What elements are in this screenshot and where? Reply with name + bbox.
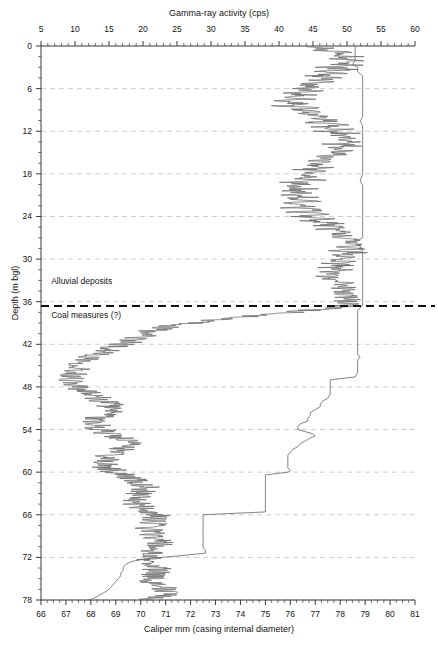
depth-tick-label-54: 54 (8, 425, 32, 435)
geology-annotation-0: Alluvial deposits (51, 276, 112, 286)
plot-frame (41, 46, 415, 600)
bottom-axis-ticks (41, 600, 415, 605)
depth-tick-label-42: 42 (8, 339, 32, 349)
top-axis-ticks (41, 41, 415, 46)
depth-tick-label-66: 66 (8, 510, 32, 520)
bottom-tick-label-81: 81 (395, 609, 435, 619)
top-axis-title: Gamma-ray activity (cps) (0, 8, 438, 18)
depth-tick-label-36: 36 (8, 297, 32, 307)
borehole-log-chart (0, 0, 438, 645)
top-tick-label-60: 60 (395, 24, 435, 34)
depth-tick-label-30: 30 (8, 254, 32, 264)
depth-tick-label-78: 78 (8, 595, 32, 605)
depth-axis-ticks (36, 46, 41, 600)
depth-tick-label-6: 6 (8, 84, 32, 94)
grid-lines (41, 89, 415, 600)
gamma-ray-trace (59, 46, 368, 600)
depth-tick-label-12: 12 (8, 126, 32, 136)
caliper-trace (88, 46, 362, 600)
geology-annotation-1: Coal measures (?) (51, 310, 121, 320)
depth-tick-label-60: 60 (8, 467, 32, 477)
depth-tick-label-18: 18 (8, 169, 32, 179)
depth-tick-label-0: 0 (8, 41, 32, 51)
depth-tick-label-48: 48 (8, 382, 32, 392)
depth-tick-label-72: 72 (8, 552, 32, 562)
bottom-axis-title: Caliper mm (casing internal diameter) (0, 624, 438, 634)
depth-tick-label-24: 24 (8, 211, 32, 221)
